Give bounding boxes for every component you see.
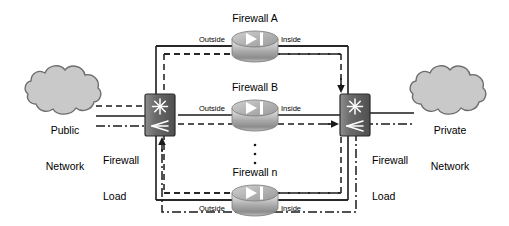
firewall-icon-b[interactable] [232, 100, 278, 131]
starburst-glyph-upper [348, 99, 363, 114]
public-network-cloud [25, 66, 101, 114]
firewall-icon-a[interactable] [232, 31, 278, 62]
starburst-glyph-upper [153, 99, 168, 114]
public-to-lb-links [96, 106, 148, 126]
firewall-ellipsis-icon [254, 144, 257, 165]
firewall-icon-n[interactable] [232, 185, 278, 216]
diagram-canvas [0, 0, 509, 226]
switch-icon-inside[interactable] [340, 94, 370, 136]
private-network-cloud [410, 66, 486, 114]
network-diagram: Public Network Private Network Firewall … [0, 0, 509, 226]
lb-to-private-links [364, 113, 414, 124]
switch-icon-outside[interactable] [145, 94, 175, 136]
dashed-arrow-right [324, 120, 339, 128]
dashed-arrow-down [337, 78, 345, 93]
